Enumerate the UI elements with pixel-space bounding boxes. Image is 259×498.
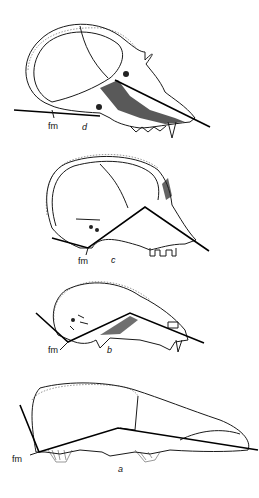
skull-comparison-figure: fm d fm c fm b: [0, 0, 259, 498]
fm-label-d: fm: [48, 121, 58, 131]
panel-label-d: d: [82, 122, 88, 132]
fm-label-c: fm: [78, 256, 88, 266]
skull-panel-d: [14, 24, 210, 138]
panel-label-a: a: [118, 464, 123, 474]
fm-label-a: fm: [12, 454, 22, 464]
fm-label-b: fm: [48, 345, 58, 355]
skull-panel-a: [20, 383, 258, 462]
skull-panel-b: [36, 282, 204, 352]
skull-panel-c: [46, 154, 209, 256]
panel-label-c: c: [111, 255, 116, 265]
panel-label-b: b: [107, 345, 112, 355]
